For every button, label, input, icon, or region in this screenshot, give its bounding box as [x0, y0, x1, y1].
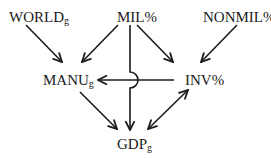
node-mil-label: MIL% [117, 9, 157, 25]
edge-mil-to-manu [82, 25, 118, 62]
edge-inv-gdp-bidirectional [148, 90, 188, 129]
edge-nonmil-to-inv [201, 25, 237, 62]
node-world: WORLDg [9, 10, 69, 26]
node-world-sub: g [64, 15, 69, 26]
node-manu-sub: g [89, 78, 94, 89]
node-nonmil-label: NONMIL% [203, 9, 271, 25]
edge-manu-to-gdp [80, 92, 117, 129]
node-inv-label: INV% [185, 72, 224, 88]
node-mil: MIL% [117, 10, 157, 25]
node-gdp: GDPg [117, 137, 152, 153]
node-gdp-label: GDP [117, 136, 147, 152]
node-manu-label: MANU [43, 72, 89, 88]
node-manu: MANUg [43, 73, 94, 89]
edge-world-to-manu [26, 25, 62, 62]
edge-mil-to-inv [137, 25, 173, 62]
edge-mil-to-gdp [130, 25, 138, 130]
node-inv: INV% [185, 73, 224, 88]
node-world-label: WORLD [9, 9, 64, 25]
node-gdp-sub: g [147, 142, 152, 153]
node-nonmil: NONMIL% [203, 10, 271, 25]
